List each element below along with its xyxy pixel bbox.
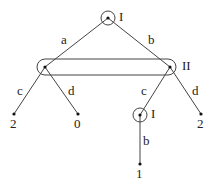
right-node (168, 65, 171, 68)
action-label-left-d: d (68, 83, 75, 98)
info-set-ii (37, 59, 176, 75)
payoff-left-d: 0 (74, 116, 81, 131)
root-node (106, 16, 109, 19)
payoff-right-d: 2 (197, 116, 204, 131)
game-tree-diagram: I II I a b c d c d b 2 0 2 1 (0, 0, 214, 188)
action-label-inner-b: b (143, 133, 150, 148)
action-label-b: b (148, 32, 155, 47)
action-label-a: a (61, 32, 67, 47)
edge-root-a (45, 18, 108, 67)
payoff-left-c: 2 (10, 116, 17, 131)
payoff-inner-b: 1 (136, 166, 143, 181)
left-node (43, 65, 46, 68)
action-label-right-d: d (192, 83, 199, 98)
action-label-right-c: c (141, 83, 147, 98)
inner-player-label: I (151, 106, 155, 121)
inner-node (138, 113, 141, 116)
edge-root-b (108, 18, 170, 67)
root-player-label: I (119, 9, 123, 24)
action-label-left-c: c (17, 83, 23, 98)
info-set-player-label: II (182, 58, 191, 73)
